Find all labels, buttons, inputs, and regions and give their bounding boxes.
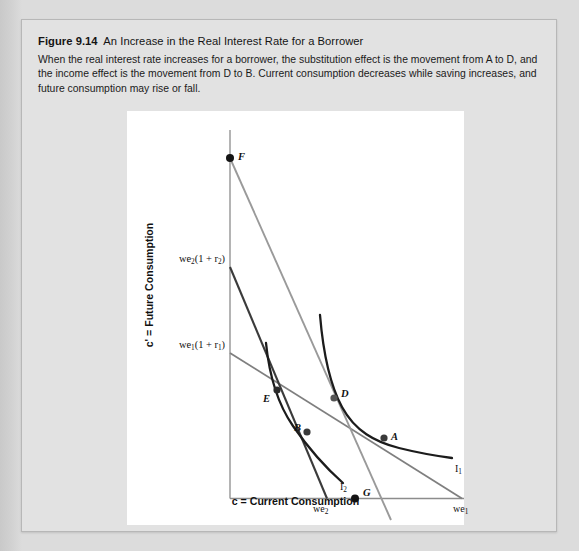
figure-description: When the real interest rate increases fo…: [38, 53, 538, 96]
y-axis-title: c' = Future Consumption: [143, 185, 155, 385]
point-label-F: F: [238, 151, 245, 162]
figure-title: An Increase in the Real Interest Rate fo…: [103, 35, 363, 47]
economics-diagram: [127, 111, 464, 525]
budget-line-original: [230, 353, 462, 499]
figure-card: Figure 9.14 An Increase in the Real Inte…: [21, 19, 557, 532]
figure-number: Figure 9.14: [38, 35, 98, 47]
point-label-D: D: [341, 388, 349, 399]
budget-line-compensated: [230, 267, 327, 499]
point-label-B: B: [294, 422, 301, 433]
plot-panel: c' = Future Consumption c = Current Cons…: [127, 111, 464, 525]
y-intercept-label-we1r1: we1(1 + r1): [161, 339, 225, 352]
point-label-E: E: [263, 393, 270, 404]
page-root: Figure 9.14 An Increase in the Real Inte…: [0, 0, 579, 551]
indifference-curve-I2: [266, 343, 343, 483]
budget-line-new: [230, 158, 391, 520]
figure-caption: Figure 9.14 An Increase in the Real Inte…: [38, 34, 538, 96]
figure-title-line: Figure 9.14 An Increase in the Real Inte…: [38, 34, 538, 49]
point-F-marker: [226, 154, 234, 162]
point-label-G: G: [363, 487, 371, 498]
curve-label-I2: I2: [340, 481, 347, 494]
x-intercept-label-we1: we1: [453, 503, 468, 516]
point-A-marker: [380, 434, 387, 441]
point-D-marker: [330, 394, 337, 401]
point-E-marker: [273, 386, 280, 393]
curve-label-I1: I1: [455, 463, 462, 476]
x-intercept-label-we2: we2: [313, 503, 328, 516]
point-B-marker: [303, 428, 310, 435]
y-intercept-label-we2r2: we2(1 + r2): [161, 253, 225, 266]
point-label-A: A: [391, 431, 398, 442]
x-axis-title: c = Current Consumption: [127, 495, 464, 507]
